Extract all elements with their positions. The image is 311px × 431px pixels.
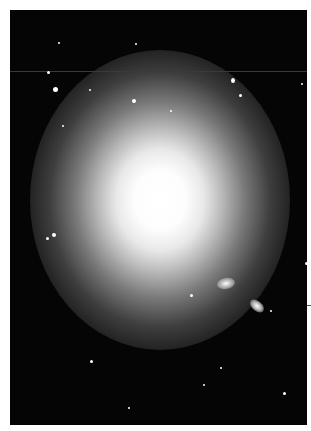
star bbox=[90, 360, 93, 363]
star bbox=[220, 367, 222, 369]
star bbox=[128, 407, 130, 409]
sensor-line bbox=[10, 71, 307, 72]
star bbox=[203, 384, 205, 386]
star bbox=[58, 42, 60, 44]
star bbox=[52, 233, 56, 237]
star bbox=[89, 89, 91, 91]
star bbox=[270, 310, 272, 312]
star bbox=[132, 99, 136, 103]
star bbox=[305, 262, 307, 265]
star bbox=[239, 94, 242, 97]
star bbox=[301, 83, 303, 85]
star bbox=[46, 237, 49, 240]
star bbox=[47, 71, 50, 74]
companion-galaxy bbox=[248, 297, 267, 315]
star bbox=[170, 110, 172, 112]
edge-tick bbox=[307, 305, 311, 306]
star bbox=[231, 78, 235, 83]
star bbox=[190, 294, 193, 297]
galaxy-photograph bbox=[10, 10, 307, 425]
star bbox=[283, 392, 286, 395]
star bbox=[53, 87, 58, 92]
star bbox=[62, 125, 64, 127]
star bbox=[135, 43, 137, 45]
